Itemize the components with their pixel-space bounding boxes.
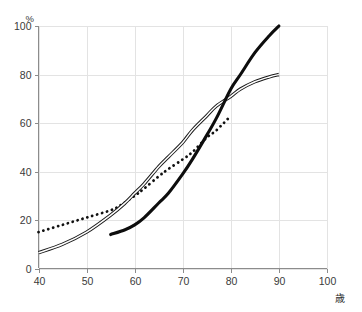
x-tick-label: 90 — [274, 275, 286, 287]
y-tick-labels: 020406080100 — [14, 20, 32, 275]
x-axis-label: 歳 — [335, 293, 345, 304]
x-tick-label: 50 — [82, 275, 94, 287]
series-line-dotted-series — [39, 116, 231, 232]
x-tick-labels: 405060708090100 — [34, 275, 337, 287]
y-tick-label: 80 — [20, 69, 32, 81]
chart-container: 020406080100 405060708090100 % 歳 — [0, 0, 362, 312]
y-tick-label: 60 — [20, 117, 32, 129]
series-group — [39, 26, 279, 253]
line-chart: 020406080100 405060708090100 % 歳 — [0, 0, 362, 312]
x-tick-label: 80 — [226, 275, 238, 287]
x-tick-label: 100 — [319, 275, 337, 287]
series-line-highlight-outlined-series — [39, 75, 279, 253]
x-tick-label: 70 — [178, 275, 190, 287]
x-tick-label: 40 — [34, 275, 46, 287]
x-gridlines — [40, 26, 328, 269]
series-line-outlined-series — [39, 75, 279, 253]
y-tick-label: 20 — [20, 214, 32, 226]
y-axis-label: % — [26, 13, 35, 24]
y-tick-label: 40 — [20, 166, 32, 178]
y-tick-label: 0 — [26, 263, 32, 275]
x-tick-label: 60 — [130, 275, 142, 287]
